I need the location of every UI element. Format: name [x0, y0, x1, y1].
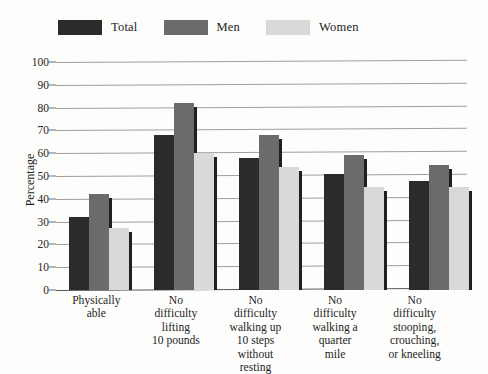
legend-label: Men [217, 20, 241, 35]
x-axis-label: No difficultywalking up10 stepswithout r… [228, 294, 283, 374]
bar-slot [429, 62, 449, 290]
bar-total [409, 181, 429, 290]
x-axis-label-line: 10 pounds [149, 334, 204, 347]
x-axis-label-line: walking a [308, 321, 363, 334]
y-tick-label: 80 [38, 101, 50, 113]
bar-men [344, 155, 364, 290]
x-axis-label-line: quarter mile [308, 334, 363, 361]
legend-swatch-men [164, 20, 208, 35]
y-tick-label: 10 [38, 261, 50, 273]
legend-swatch-women [266, 20, 310, 35]
legend-label: Total [111, 20, 138, 35]
bar-slot [279, 62, 299, 290]
bar-slot [174, 62, 194, 290]
bar-slot [109, 62, 129, 290]
y-tick-label: 20 [38, 238, 50, 250]
y-tick-label: 50 [38, 170, 50, 182]
x-axis-label: No difficultylifting10 pounds [149, 294, 204, 374]
y-tick-label: 70 [38, 124, 50, 136]
bar-total [324, 174, 344, 290]
y-tick-label: 30 [38, 215, 50, 227]
bar-women [364, 187, 384, 290]
y-tick-mark [49, 244, 56, 245]
bar-men [89, 194, 109, 290]
x-axis-label-line: No difficulty [387, 294, 442, 321]
y-axis-title: Percentage [23, 154, 38, 207]
bar-slot [239, 62, 259, 290]
bar-group [239, 62, 299, 290]
legend-entry: Women [266, 20, 359, 35]
y-tick-mark [49, 84, 56, 85]
bar-women [449, 187, 469, 290]
x-axis-label-line: No difficulty [149, 294, 204, 321]
x-axis-label: No difficultystooping,crouching,or kneel… [387, 294, 442, 374]
x-axis-label-line: 10 steps [228, 334, 283, 347]
x-axis-label-line: without resting [228, 348, 283, 374]
bar-slot [89, 62, 109, 290]
x-axis-label-line: able [69, 307, 124, 320]
bar-slot [344, 62, 364, 290]
bar-slot [154, 62, 174, 290]
bar-women [194, 153, 214, 290]
bar-slot [364, 62, 384, 290]
legend-swatch-total [58, 20, 102, 35]
bar-slot [259, 62, 279, 290]
legend-entry: Total [58, 20, 138, 35]
bar-men [259, 135, 279, 290]
x-axis-label-line: crouching, [387, 334, 442, 347]
x-axis-label-line: lifting [149, 321, 204, 334]
bar-group [409, 62, 469, 290]
bar-women [109, 228, 129, 290]
bar-slot [409, 62, 429, 290]
x-axis-label: Physicallyable [69, 294, 124, 374]
y-tick-mark [49, 267, 56, 268]
bar-total [69, 217, 89, 290]
bar-men [429, 165, 449, 290]
bar-men [174, 103, 194, 290]
x-axis-label-line: Physically [69, 294, 124, 307]
legend-entry: Men [164, 20, 241, 35]
x-axis-label-line: No difficulty [308, 294, 363, 321]
bar-group [69, 62, 129, 290]
plot-area: 1009080706050403020100 [56, 62, 467, 290]
y-tick-mark [49, 290, 56, 291]
bar-total [154, 135, 174, 290]
x-axis-label-line: walking up [228, 321, 283, 334]
y-tick-label: 100 [32, 56, 49, 68]
bar-total [239, 158, 259, 290]
bar-group [154, 62, 214, 290]
y-tick-label: 0 [43, 284, 49, 296]
bar-slot [69, 62, 89, 290]
y-tick-label: 40 [38, 193, 50, 205]
x-axis-label-line: or kneeling [387, 348, 442, 361]
chart-legend: TotalMenWomen [58, 20, 385, 35]
x-axis-label-line: stooping, [387, 321, 442, 334]
y-tick-label: 90 [38, 79, 50, 91]
x-axis-label: No difficultywalking aquarter mile [308, 294, 363, 374]
x-axis-labels: PhysicallyableNo difficultylifting10 pou… [56, 294, 467, 374]
y-tick-mark [49, 176, 56, 177]
bar-slot [194, 62, 214, 290]
bar-slot [324, 62, 344, 290]
y-tick-mark [49, 153, 56, 154]
y-tick-mark [49, 221, 56, 222]
x-axis-label-line: No difficulty [228, 294, 283, 321]
y-tick-mark [49, 62, 56, 63]
bar-group [324, 62, 384, 290]
legend-label: Women [319, 20, 359, 35]
bar-groups [56, 62, 467, 290]
y-tick-mark [49, 107, 56, 108]
bar-women [279, 167, 299, 290]
y-tick-mark [49, 198, 56, 199]
y-tick-label: 60 [38, 147, 50, 159]
bar-slot [449, 62, 469, 290]
y-tick-mark [49, 130, 56, 131]
